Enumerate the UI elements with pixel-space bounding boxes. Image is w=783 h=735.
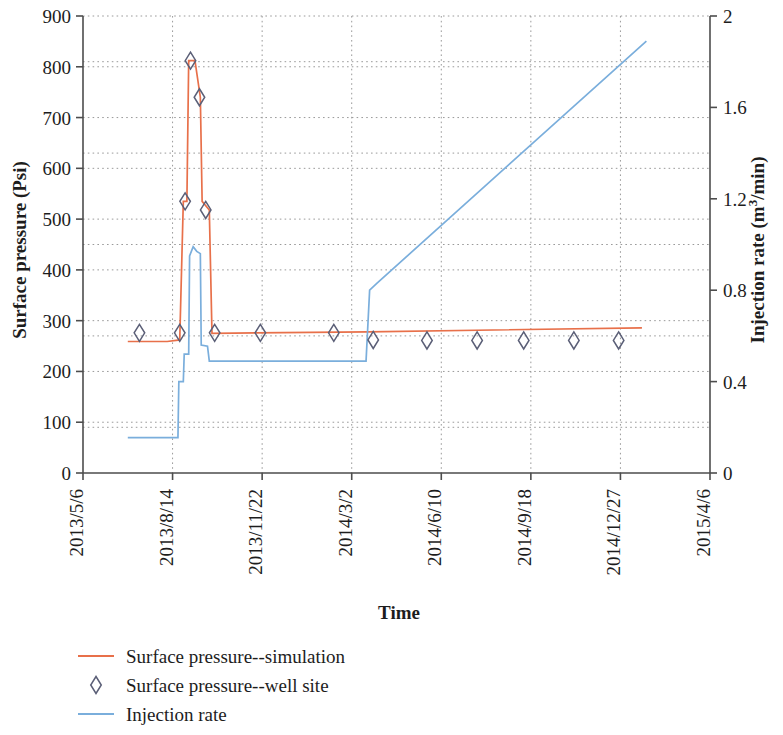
- y-tick-label: 200: [43, 361, 72, 382]
- x-tick-label: 2014/12/27: [603, 489, 624, 576]
- y2-tick-label: 0.4: [723, 372, 747, 393]
- y2-axis-title-suffix: /min): [747, 157, 769, 201]
- surface-pressure-injection-rate-chart: 0100200300400500600700800900 00.40.81.21…: [0, 0, 783, 735]
- legend-label: Surface pressure--simulation: [126, 646, 345, 667]
- x-tick-label: 2014/6/10: [424, 489, 445, 566]
- gridlines: [83, 16, 710, 473]
- y2-tick-label: 0.8: [723, 280, 747, 301]
- x-tick-label: 2013/8/14: [156, 489, 177, 567]
- data-marker-diamond: [569, 332, 580, 349]
- y-tick-label: 100: [43, 412, 72, 433]
- y2-tick-label: 0: [723, 463, 733, 484]
- series-line-injection-rate: [128, 41, 647, 437]
- data-series: [128, 41, 647, 437]
- y-axis-tick-labels: 0100200300400500600700800900: [43, 6, 72, 484]
- y-tick-label: 0: [62, 463, 72, 484]
- x-axis-tick-labels: 2013/5/62013/8/142013/11/222014/3/22014/…: [66, 489, 714, 576]
- y-tick-label: 400: [43, 260, 72, 281]
- x-tick-label: 2013/5/6: [66, 489, 87, 557]
- data-marker-diamond: [368, 331, 379, 348]
- x-tick-label: 2014/9/18: [514, 489, 535, 566]
- data-marker-diamond: [134, 324, 145, 341]
- series-line-surface-pressure-simulation: [128, 61, 642, 342]
- y-tick-label: 600: [43, 158, 72, 179]
- y2-axis-title-prefix: Injection rate (m: [747, 206, 769, 343]
- legend-label: Injection rate: [126, 704, 227, 725]
- y-axis-title: Surface pressure (Psi): [9, 161, 31, 339]
- y2-tick-label: 1.6: [723, 97, 747, 118]
- legend-label: Surface pressure--well site: [126, 675, 329, 696]
- y-tick-label: 500: [43, 209, 72, 230]
- y2-axis-title: Injection rate (m3/min): [745, 157, 769, 344]
- y-tick-label: 800: [43, 57, 72, 78]
- data-marker-diamond: [472, 332, 483, 349]
- data-marker-diamond: [613, 332, 624, 349]
- x-tick-label: 2015/4/6: [693, 489, 714, 557]
- chart-legend: Surface pressure--simulationSurface pres…: [78, 646, 345, 725]
- y2-tick-label: 1.2: [723, 189, 747, 210]
- y2-tick-label: 2: [723, 6, 733, 27]
- y2-axis-tick-labels: 00.40.81.21.62: [723, 6, 747, 484]
- y-tick-label: 700: [43, 108, 72, 129]
- legend-swatch-diamond: [91, 677, 102, 694]
- data-markers: [134, 52, 624, 349]
- y-tick-label: 900: [43, 6, 72, 27]
- data-marker-diamond: [518, 332, 529, 349]
- x-tick-label: 2014/3/2: [335, 489, 356, 557]
- chart-figure: 0100200300400500600700800900 00.40.81.21…: [0, 0, 783, 735]
- x-axis-title: Time: [378, 602, 420, 623]
- x-tick-label: 2013/11/22: [245, 489, 266, 575]
- y-tick-label: 300: [43, 311, 72, 332]
- data-marker-diamond: [422, 332, 433, 349]
